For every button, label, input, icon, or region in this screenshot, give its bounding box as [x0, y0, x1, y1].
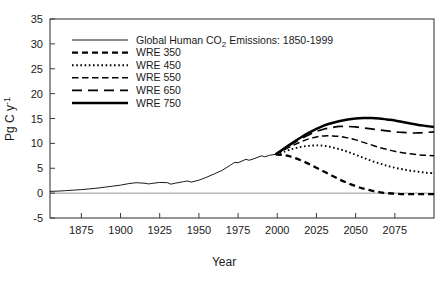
- x-tick-label: 1950: [187, 224, 211, 236]
- y-tick-label: 10: [31, 137, 43, 149]
- x-tick-label: 1925: [147, 224, 171, 236]
- legend-label: WRE 450: [136, 59, 181, 71]
- legend-label: WRE 550: [136, 71, 181, 83]
- emissions-line-chart: 187519001925195019752000202520502075 -50…: [0, 0, 448, 282]
- y-axis-title-superscript: -1: [2, 97, 12, 105]
- x-axis-title: Year: [212, 255, 236, 269]
- y-tick-label: 20: [31, 88, 43, 100]
- y-tick-label: 15: [31, 113, 43, 125]
- y-tick-label: 25: [31, 63, 43, 75]
- x-tick-label: 2025: [304, 224, 328, 236]
- y-tick-label: 30: [31, 38, 43, 50]
- x-tick-label: 2050: [343, 224, 367, 236]
- legend-label: WRE 350: [136, 46, 181, 58]
- x-tick-label: 2075: [383, 224, 407, 236]
- chart-figure: 187519001925195019752000202520502075 -50…: [0, 0, 448, 282]
- legend-label: WRE 650: [136, 84, 181, 96]
- y-tick-label: 35: [31, 13, 43, 25]
- y-tick-label: 5: [37, 162, 43, 174]
- y-axis-title-base: Pg C y: [3, 105, 17, 141]
- x-tick-label: 1900: [108, 224, 132, 236]
- x-axis-tick-labels: 187519001925195019752000202520502075: [69, 224, 407, 236]
- legend-label: WRE 750: [136, 97, 181, 109]
- x-tick-label: 2000: [265, 224, 289, 236]
- x-tick-label: 1875: [69, 224, 93, 236]
- y-tick-label: -5: [33, 212, 43, 224]
- y-tick-label: 0: [37, 187, 43, 199]
- x-tick-label: 1975: [226, 224, 250, 236]
